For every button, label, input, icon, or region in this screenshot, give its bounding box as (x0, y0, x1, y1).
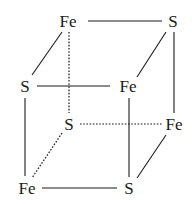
bond-bottom-back-right-bottom-front-right (137, 135, 166, 178)
atom-fe-bottom-back-right: Fe (166, 116, 183, 133)
bond-top-back-right-top-front-right (137, 32, 166, 77)
cubane-diagram: Fe S S Fe S Fe Fe S (0, 0, 192, 204)
atom-s-bottom-front-right: S (124, 180, 133, 197)
bonds-layer (0, 0, 192, 204)
atom-fe-top-front-right: Fe (120, 78, 137, 95)
bond-top-back-left-top-front-left (32, 32, 62, 75)
atom-fe-top-back-left: Fe (60, 13, 77, 30)
atom-s-bottom-back-left: S (64, 116, 73, 133)
atom-fe-bottom-front-left: Fe (19, 180, 36, 197)
atom-s-top-front-left: S (20, 78, 29, 95)
bond-bottom-back-left-bottom-front-left (32, 133, 62, 178)
atom-s-top-back-right: S (168, 13, 177, 30)
